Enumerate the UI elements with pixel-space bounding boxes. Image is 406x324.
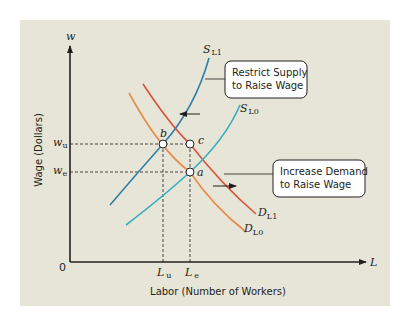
guide-lines: [70, 144, 190, 262]
y-axis-symbol: w: [66, 30, 76, 43]
point-c: [186, 140, 194, 148]
origin-label: 0: [59, 261, 66, 274]
labor-market-chart: b c a w L 0 wu we Lu Le SL1 SL0 DL1 DL0 …: [0, 0, 406, 324]
point-b-label: b: [160, 127, 167, 140]
y-axis-title: Wage (Dollars): [33, 113, 44, 187]
point-a: [186, 168, 194, 176]
callout-increase-demand: Increase Demand to Raise Wage: [273, 160, 368, 197]
x-axis-title: Labor (Number of Workers): [150, 286, 286, 297]
svg-text:to Raise Wage: to Raise Wage: [232, 80, 303, 91]
y-tick-wu: wu: [53, 136, 68, 150]
point-a-label: a: [197, 166, 204, 179]
demand-l0-label: DL0: [243, 222, 263, 237]
x-tick-le: Le: [184, 266, 199, 280]
point-c-label: c: [198, 134, 204, 147]
supply-curve-l0: [126, 105, 240, 225]
callout-restrict-supply: Restrict Supply to Raise Wage: [225, 61, 307, 98]
x-axis-symbol: L: [369, 256, 377, 269]
x-tick-lu: Lu: [156, 266, 171, 280]
y-tick-we: we: [53, 164, 67, 178]
point-b: [159, 140, 167, 148]
svg-text:Restrict Supply: Restrict Supply: [232, 67, 307, 78]
demand-l1-label: DL1: [257, 206, 277, 221]
svg-text:Increase Demand: Increase Demand: [280, 166, 368, 177]
supply-l1-label: SL1: [203, 43, 222, 57]
supply-l0-label: SL0: [240, 102, 259, 116]
svg-text:to Raise Wage: to Raise Wage: [280, 179, 351, 190]
